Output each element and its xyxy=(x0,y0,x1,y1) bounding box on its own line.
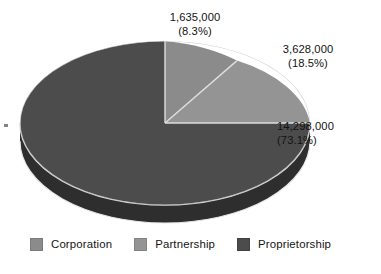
legend-swatch-corporation xyxy=(30,238,43,251)
legend-label-corporation: Corporation xyxy=(51,238,112,251)
slice-percent-partnership: (18.5%) xyxy=(262,57,354,71)
legend-label-proprietorship: Proprietorship xyxy=(258,238,331,251)
slice-label-proprietorship: 14,298,000 (73.1%) xyxy=(277,120,381,147)
slice-value-partnership: 3,628,000 xyxy=(262,43,354,57)
slice-percent-proprietorship: (73.1%) xyxy=(277,134,381,148)
slice-percent-corporation: (8.3%) xyxy=(151,25,239,39)
legend-item-corporation: Corporation xyxy=(30,238,112,251)
slice-value-proprietorship: 14,298,000 xyxy=(277,120,381,134)
legend-swatch-partnership xyxy=(134,238,147,251)
slice-value-corporation: 1,635,000 xyxy=(151,11,239,25)
slice-label-partnership: 3,628,000 (18.5%) xyxy=(262,43,354,70)
legend-item-partnership: Partnership xyxy=(134,238,215,251)
legend-swatch-proprietorship xyxy=(237,238,250,251)
legend-item-proprietorship: Proprietorship xyxy=(237,238,331,251)
legend-label-partnership: Partnership xyxy=(155,238,215,251)
slice-label-corporation: 1,635,000 (8.3%) xyxy=(151,11,239,38)
pie-chart-figure: 1,635,000 (8.3%) 3,628,000 (18.5%) 14,29… xyxy=(0,0,381,274)
chart-legend: Corporation Partnership Proprietorship xyxy=(30,238,331,251)
